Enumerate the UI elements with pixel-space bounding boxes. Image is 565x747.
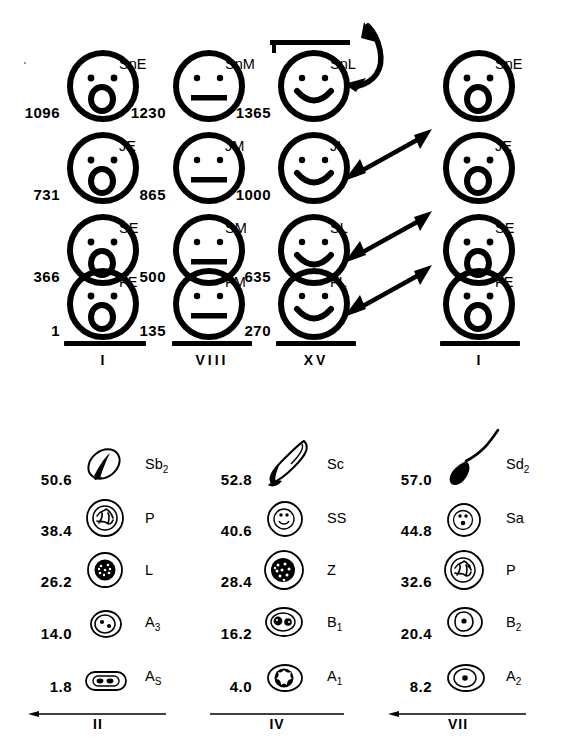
- cell-spermatozoon-sd2: [438, 428, 508, 490]
- row-label: AS: [145, 668, 161, 687]
- stage-bar: [64, 341, 146, 346]
- cell-secondary-spermatocyte: [266, 500, 304, 538]
- stage-roman: II: [28, 716, 168, 732]
- row-number: 1000: [211, 186, 271, 203]
- row-number: 38.4: [10, 522, 72, 539]
- stage-bar: [172, 341, 252, 346]
- row-label: JM: [225, 138, 244, 154]
- stage-roman: IV: [208, 716, 346, 732]
- row-label: B1: [327, 614, 342, 633]
- stage-bar: [276, 341, 356, 346]
- arrow-curved-snl: [340, 18, 420, 98]
- row-number: 50.6: [10, 471, 72, 488]
- row-label: FE: [495, 274, 514, 290]
- arrow-sl: [340, 207, 440, 267]
- row-label: P: [145, 510, 155, 529]
- stage-roman: VIII: [168, 352, 256, 368]
- cell-spermatid-sc: [258, 435, 314, 491]
- cell-spermatid-sb2: [80, 442, 128, 486]
- stage-roman: VII: [388, 716, 528, 732]
- cell-zygotene: [263, 549, 305, 591]
- row-number: 1365: [211, 104, 271, 121]
- arrow-jl: [340, 125, 440, 185]
- row-label: A2: [506, 668, 521, 687]
- row-label: Sd2: [506, 456, 529, 475]
- row-label: A3: [145, 614, 160, 633]
- row-number: 865: [106, 186, 166, 203]
- row-number: 28.4: [190, 573, 252, 590]
- cell-spermatogonium-a3: [88, 607, 124, 641]
- row-label: Sc: [327, 456, 344, 475]
- cell-spermatid-sa: [446, 502, 482, 538]
- row-number: 40.6: [190, 522, 252, 539]
- row-label: P: [506, 562, 516, 581]
- row-number: 44.8: [370, 522, 432, 539]
- stage-roman: XV: [272, 352, 360, 368]
- cell-spermatogonium-b1: [263, 604, 305, 640]
- row-number: 14.0: [10, 625, 72, 642]
- row-number: 1.8: [10, 678, 72, 695]
- row-number: 366: [0, 268, 60, 285]
- row-label: SE: [119, 220, 138, 236]
- row-number: 8.2: [370, 678, 432, 695]
- cell-leptotene: [85, 550, 125, 590]
- cell-spermatogonium-a1: [265, 662, 305, 694]
- row-number: 20.4: [370, 625, 432, 642]
- row-label: SnM: [225, 56, 255, 72]
- row-label: SM: [225, 220, 247, 236]
- cell-pachytene: [84, 497, 126, 539]
- page-speck: [24, 62, 26, 64]
- row-number: 135: [106, 322, 166, 339]
- stage-roman: I: [436, 352, 524, 368]
- row-label: Sa: [506, 510, 524, 529]
- arrow-fl: [340, 261, 440, 321]
- row-number: 1: [0, 322, 60, 339]
- row-number: 1230: [106, 104, 166, 121]
- row-label: Z: [327, 562, 336, 581]
- stage-roman: I: [62, 352, 146, 368]
- row-number: 16.2: [190, 625, 252, 642]
- row-number: 57.0: [370, 471, 432, 488]
- row-number: 32.6: [370, 573, 432, 590]
- row-label: A1: [327, 668, 342, 687]
- row-number: 4.0: [190, 678, 252, 695]
- row-label: SnE: [495, 56, 522, 72]
- row-label: SnE: [119, 56, 146, 72]
- cell-pachytene: [443, 549, 485, 591]
- row-number: 731: [0, 186, 60, 203]
- row-number: 500: [106, 268, 166, 285]
- row-label: SE: [495, 220, 514, 236]
- row-label: B2: [506, 614, 521, 633]
- row-label: JE: [495, 138, 512, 154]
- row-number: 635: [211, 268, 271, 285]
- cell-spermatogonium-b2: [445, 605, 485, 639]
- row-number: 52.8: [190, 471, 252, 488]
- cell-spermatogonium-a2: [445, 662, 487, 694]
- cell-spermatogonium-as: [84, 668, 128, 694]
- stage-bar: [440, 341, 520, 346]
- row-number: 270: [211, 322, 271, 339]
- row-label: SS: [327, 510, 346, 529]
- row-number: 1096: [0, 104, 60, 121]
- row-label: JE: [119, 138, 136, 154]
- row-label: Sb2: [145, 456, 168, 475]
- row-number: 26.2: [10, 573, 72, 590]
- row-label: L: [145, 562, 153, 581]
